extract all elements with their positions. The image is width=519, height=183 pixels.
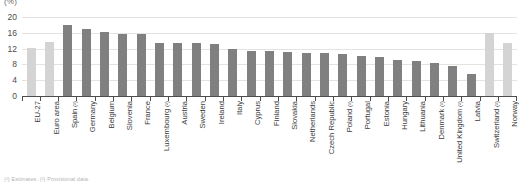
bar-slot [462,17,480,96]
category-label-slot: Switzerland (²) [480,101,498,167]
bar-slot [352,17,370,96]
category-label-slot: Norway [499,101,517,167]
bar [45,42,54,96]
bar-slot [114,17,132,96]
bar-slot [169,17,187,96]
bar-slot [279,17,297,96]
bar-slot [499,17,517,96]
category-label-slot: Portugal [352,101,370,167]
category-label-slot: France [132,101,150,167]
bar-slot [407,17,425,96]
bar-slot [480,17,498,96]
bar-slot [224,17,242,96]
bar-slot [187,17,205,96]
category-label-slot: Estonia [370,101,388,167]
bar-chart: (%) 048121620 EU-27Euro areaSpain (²)Ger… [0,0,519,183]
bar [448,66,457,96]
category-label-slot: Spain (²) [59,101,77,167]
category-label-slot: Austria [169,101,187,167]
category-label-slot: Euro area [40,101,58,167]
bar [100,32,109,96]
bar [302,53,311,96]
bar-slot [150,17,168,96]
bar [173,43,182,96]
bar [357,56,366,96]
category-label-slot: Denmark (²) [425,101,443,167]
bar [228,49,237,96]
bar [192,43,201,96]
plot-area: 048121620 [0,17,519,96]
bar [320,53,329,96]
bar-slot [444,17,462,96]
y-tick-label: 8 [2,60,17,68]
category-label-slot: Cyprus [242,101,260,167]
bar [430,63,439,96]
bar [137,34,146,96]
bar-slot [260,17,278,96]
category-label-slot: Hungary [389,101,407,167]
bar-slot [297,17,315,96]
category-label-slot: Finland [260,101,278,167]
category-label-slot: Slovenia [114,101,132,167]
category-label-slot: Netherlands [297,101,315,167]
category-label-slot: Belgium [95,101,113,167]
bar-slot [425,17,443,96]
x-axis-category-labels: EU-27Euro areaSpain (²)GermanyBelgiumSlo… [22,101,517,167]
bar [247,51,256,96]
bar [375,57,384,96]
bar [118,34,127,96]
category-label-slot: Germany [77,101,95,167]
bar [265,51,274,96]
y-tick-label: 0 [2,92,17,100]
category-label-slot: Sweden [187,101,205,167]
bar [82,29,91,96]
bar-slot [370,17,388,96]
bar [503,43,512,96]
category-label-slot: United Kingdom (²) [444,101,462,167]
bar [283,52,292,96]
bar-series [22,17,517,96]
bar [412,61,421,96]
category-label-slot: EU-27 [22,101,40,167]
category-label-slot: Slovakia [279,101,297,167]
category-label-slot: Lithuania [407,101,425,167]
y-tick-label: 20 [2,13,17,21]
unit-label: (%) [4,0,17,6]
bar [338,54,347,96]
bar-slot [242,17,260,96]
category-label-slot: Ireland [205,101,223,167]
footnote: (¹) Estimates. (²) Provisional data. [4,176,90,182]
bar-slot [389,17,407,96]
bar-slot [22,17,40,96]
category-label-slot: Poland (²) [334,101,352,167]
bar [155,43,164,96]
bar-slot [132,17,150,96]
bar-slot [205,17,223,96]
bar [467,74,476,96]
bar-slot [59,17,77,96]
bar-slot [77,17,95,96]
category-label-slot: Italy [224,101,242,167]
bar-slot [315,17,333,96]
bar-slot [40,17,58,96]
bar [393,60,402,96]
y-tick-label: 12 [2,45,17,53]
category-label-slot: Czech Republic [315,101,333,167]
y-tick-label: 16 [2,29,17,37]
category-label: Norway [511,101,519,127]
category-label-slot: Latvia [462,101,480,167]
bar [485,33,494,96]
bar [27,48,36,96]
bar-slot [334,17,352,96]
bar [210,44,219,96]
bar [63,25,72,96]
y-tick-label: 4 [2,76,17,84]
category-label-slot: Luxembourg (²) [150,101,168,167]
bar-slot [95,17,113,96]
